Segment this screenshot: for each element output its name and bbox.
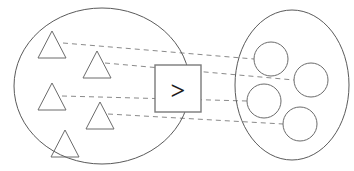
triangle-5	[51, 130, 79, 157]
triangle-2	[83, 51, 111, 78]
circle-1	[254, 42, 288, 76]
circle-3	[247, 84, 281, 118]
right-set-outline	[235, 10, 349, 160]
diagram-canvas: >	[0, 0, 354, 171]
circle-4	[283, 107, 317, 141]
operator-box: >	[155, 65, 201, 112]
triangle-1	[38, 31, 66, 58]
circle-2	[294, 63, 328, 97]
operator-symbol: >	[171, 76, 186, 105]
right-set-items	[247, 42, 328, 141]
set-comparison-diagram: >	[0, 0, 354, 171]
match-line-1	[63, 43, 254, 59]
left-set-items	[38, 31, 114, 157]
triangle-4	[86, 102, 114, 129]
match-line-4	[108, 114, 283, 124]
triangle-3	[38, 83, 66, 110]
